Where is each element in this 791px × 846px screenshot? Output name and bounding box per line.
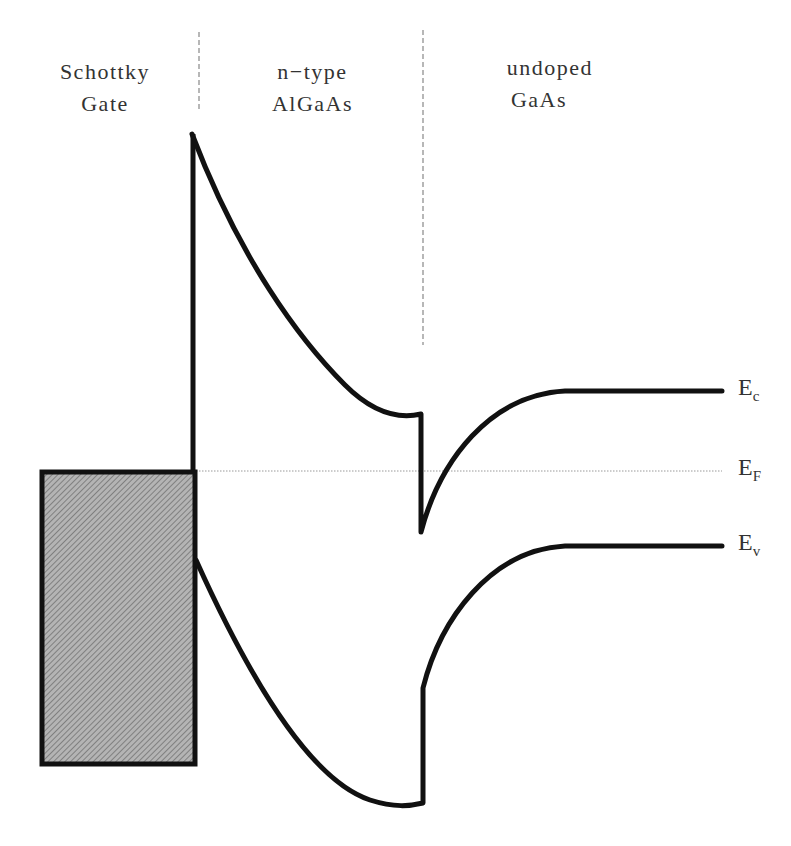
band-letter: E [738,374,753,400]
region-label-line1: undoped [480,52,620,84]
band-letter: E [738,529,753,555]
region-label-line2: AlGaAs [245,88,380,120]
conduction-band-curve [192,134,722,532]
region-label-algaas: n−type AlGaAs [245,56,380,120]
band-label-ev: Ev [738,529,760,560]
valence-band-curve [196,546,722,806]
band-diagram [0,0,791,846]
band-subscript: c [753,388,760,404]
band-label-ef: EF [738,454,761,485]
region-label-line1: Schottky [35,56,175,88]
region-label-line1: n−type [245,56,380,88]
band-label-ec: Ec [738,374,759,405]
band-subscript: v [753,543,761,559]
band-subscript: F [753,468,761,484]
region-label-schottky-gate: Schottky Gate [35,56,175,120]
schottky-gate-metal [42,472,195,764]
region-label-gaas: undoped GaAs [480,52,620,116]
region-label-line2: Gate [35,88,175,120]
band-letter: E [738,454,753,480]
region-label-line2: GaAs [480,84,598,116]
